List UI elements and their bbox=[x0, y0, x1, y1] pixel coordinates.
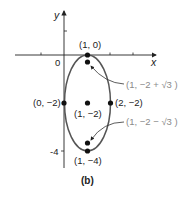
y-axis-label: y bbox=[53, 9, 60, 21]
figure-caption: (b) bbox=[81, 175, 94, 186]
label-focus-lower: (1, −2 − √3 ) bbox=[126, 116, 178, 127]
label-bottom-vertex: (1, −4) bbox=[74, 155, 102, 166]
ellipse-diagram: x y 0 -4 (1, 0) (0, −2) (1, −2) (2, −2) … bbox=[0, 0, 187, 200]
point-right bbox=[108, 100, 113, 105]
point-center bbox=[85, 100, 90, 105]
origin-label: 0 bbox=[55, 57, 60, 68]
point-focus-lower bbox=[85, 140, 90, 145]
label-center: (1, −2) bbox=[74, 108, 102, 119]
point-top-vertex bbox=[85, 52, 90, 57]
point-bottom-vertex bbox=[85, 148, 90, 153]
label-top-vertex: (1, 0) bbox=[79, 39, 101, 50]
label-focus-upper: (1, −2 + √3 ) bbox=[126, 79, 178, 90]
y-tick-label-neg4: -4 bbox=[50, 146, 58, 157]
point-left bbox=[61, 100, 66, 105]
label-left: (0, −2) bbox=[33, 97, 61, 108]
x-axis-label: x bbox=[150, 56, 157, 68]
label-right: (2, −2) bbox=[115, 97, 143, 108]
point-focus-upper bbox=[85, 59, 90, 64]
points bbox=[61, 52, 113, 153]
